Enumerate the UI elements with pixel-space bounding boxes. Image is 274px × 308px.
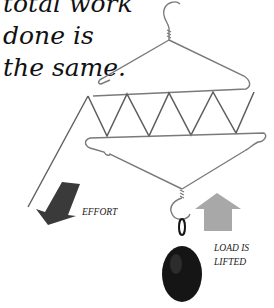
load-arrow-icon	[195, 193, 241, 231]
load-label-line-1: LOAD IS	[214, 242, 249, 254]
zigzag-rope-icon	[88, 92, 254, 136]
effort-arrow-icon	[36, 182, 80, 225]
load-label-line-2: LIFTED	[214, 256, 246, 268]
pulley-hanger-diagram: total work done is the same.	[0, 0, 274, 308]
weight-icon	[162, 219, 202, 302]
top-hanger-icon	[93, 2, 250, 96]
effort-label: EFFORT	[82, 206, 117, 218]
